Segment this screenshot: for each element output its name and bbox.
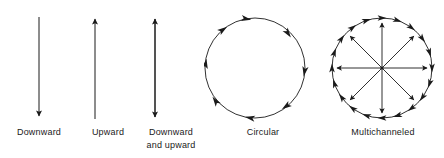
caption-down-up-line1: Downward	[149, 127, 193, 137]
caption-downward-line1: Downward	[17, 127, 61, 137]
caption-multichanneled: Multichanneled	[322, 126, 444, 139]
caption-upward: Upward	[78, 126, 138, 139]
caption-circular: Circular	[204, 126, 322, 139]
caption-down-up-line2: and upward	[138, 139, 204, 152]
communication-flow-diagram: Downward Upward	[0, 0, 444, 158]
circular-arrowheads	[204, 15, 309, 122]
caption-multichanneled-line1: Multichanneled	[351, 127, 414, 137]
caption-circular-line1: Circular	[247, 127, 280, 137]
caption-downward: Downward	[0, 126, 78, 139]
caption-downward-and-upward: Downward and upward	[138, 126, 204, 152]
caption-upward-line1: Upward	[92, 127, 124, 137]
center-hub	[380, 66, 383, 69]
